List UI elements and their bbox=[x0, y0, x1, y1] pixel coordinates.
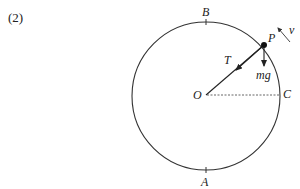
problem-number: (2) bbox=[8, 11, 23, 24]
label-o: O bbox=[193, 89, 202, 101]
particle-p bbox=[261, 42, 267, 48]
label-c: C bbox=[283, 88, 291, 100]
label-mg: mg bbox=[256, 69, 271, 81]
label-p: P bbox=[268, 32, 275, 44]
label-a: A bbox=[201, 176, 208, 188]
label-v: v bbox=[289, 24, 294, 36]
circle-path bbox=[132, 22, 280, 170]
tension-arrow bbox=[236, 45, 264, 70]
label-t: T bbox=[224, 54, 231, 66]
label-b: B bbox=[202, 6, 209, 18]
circular-motion-diagram bbox=[0, 0, 300, 189]
